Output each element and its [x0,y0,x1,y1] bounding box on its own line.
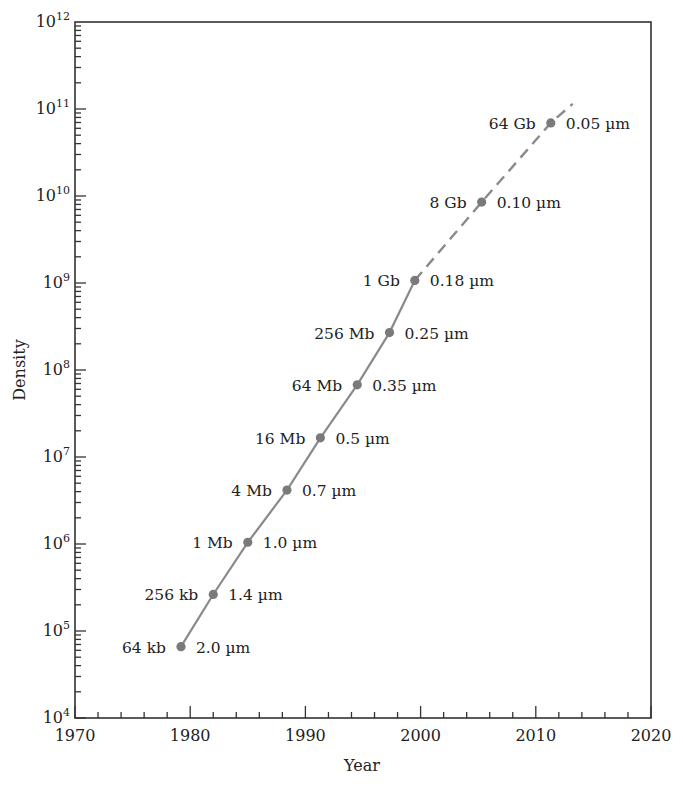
y-tick-label: 109 [43,271,70,292]
density-vs-year-chart: 104105106107108109101010111012 197019801… [0,0,683,786]
y-tick-label: 107 [43,445,70,466]
feature-size-label: 0.7 µm [302,482,357,500]
feature-size-label: 0.10 µm [497,194,562,212]
x-tick-label: 1980 [170,726,211,745]
capacity-label: 8 Gb [430,194,467,212]
capacity-label: 64 kb [122,639,166,657]
y-tick-label: 104 [43,706,70,727]
y-tick-label: 1010 [36,184,70,205]
data-point [353,380,362,389]
capacity-label: 256 Mb [314,325,374,343]
capacity-label: 4 Mb [231,482,272,500]
x-axis-ticks [75,706,651,718]
data-point [410,276,419,285]
data-point [546,118,555,127]
feature-size-label: 2.0 µm [196,639,251,657]
y-axis-title: Density [10,339,29,400]
y-tick-label: 1011 [36,97,70,118]
data-point-labels: 64 kb2.0 µm256 kb1.4 µm1 Mb1.0 µm4 Mb0.7… [122,115,630,657]
feature-size-label: 0.18 µm [430,272,495,290]
feature-size-label: 0.05 µm [566,115,631,133]
x-tick-label: 1970 [55,726,96,745]
y-tick-label: 108 [43,358,70,379]
feature-size-label: 1.0 µm [263,534,318,552]
y-tick-label: 1012 [36,10,70,31]
x-tick-label: 2010 [515,726,556,745]
x-axis-title: Year [343,756,380,775]
feature-size-label: 0.5 µm [335,430,390,448]
feature-size-label: 0.25 µm [404,325,469,343]
x-tick-label: 2020 [631,726,672,745]
x-tick-label: 2000 [400,726,441,745]
y-axis-tick-labels: 104105106107108109101010111012 [36,10,70,727]
y-tick-label: 106 [43,532,70,553]
capacity-label: 256 kb [144,586,198,604]
capacity-label: 1 Gb [363,272,400,290]
plot-frame [75,22,651,718]
data-point [477,197,486,206]
data-point [316,433,325,442]
capacity-label: 1 Mb [192,534,233,552]
x-axis-tick-labels: 197019801990200020102020 [55,726,672,745]
capacity-label: 64 Gb [489,115,536,133]
capacity-label: 64 Mb [292,377,343,395]
y-tick-label: 105 [43,619,70,640]
feature-size-label: 0.35 µm [372,377,437,395]
y-axis-ticks [75,26,86,718]
data-point [385,328,394,337]
data-point [176,642,185,651]
data-point [209,590,218,599]
capacity-label: 16 Mb [255,430,306,448]
feature-size-label: 1.4 µm [228,586,283,604]
x-tick-label: 1990 [285,726,326,745]
data-point [243,538,252,547]
data-point [282,485,291,494]
